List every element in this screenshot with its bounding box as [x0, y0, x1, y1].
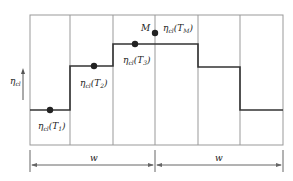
point-m: [152, 30, 158, 36]
dimension-lines: [30, 150, 283, 172]
dimension-label-right: w: [215, 153, 223, 163]
label-t2: ηcl(T2): [80, 78, 108, 89]
label-t3: ηcl(T3): [123, 55, 151, 66]
label-m: M: [140, 23, 151, 33]
dimension-label-left: w: [90, 153, 98, 163]
efficiency-step-diagram: ηcl ηcl(T1) ηcl(T2) ηcl(T3) M ηcl(TM) w …: [0, 0, 293, 181]
point-t3: [132, 41, 138, 47]
step-profile-line: [30, 44, 283, 110]
label-t1: ηcl(T1): [38, 121, 66, 132]
point-t1: [47, 107, 53, 113]
label-tm: ηcl(TM): [163, 23, 193, 34]
point-t2: [91, 63, 97, 69]
arrow-up-icon: [21, 68, 25, 74]
y-axis-label: ηcl: [10, 76, 21, 87]
